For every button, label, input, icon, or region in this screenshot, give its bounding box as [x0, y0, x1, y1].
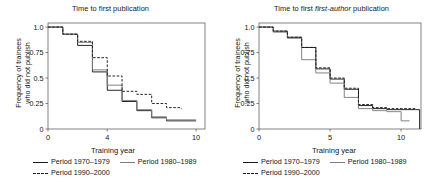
svg-text:10: 10	[397, 133, 405, 142]
legend-entry-period-1970-1979: Period 1970–1979	[33, 157, 110, 166]
svg-text:5: 5	[328, 133, 332, 142]
legend-entry-period-1980-1989: Period 1980–1989	[330, 157, 407, 166]
figure-two-panel-survival-curves: Time to first publication 00.250.50.751.…	[0, 0, 442, 187]
legend-entry-period-1990-2000: Period 1990–2000	[243, 168, 320, 177]
legend-label-period-1970-1979: Period 1970–1979	[51, 157, 110, 166]
svg-text:0: 0	[46, 133, 50, 142]
legend-line-solid-dark-icon	[33, 159, 48, 165]
svg-text:0: 0	[251, 125, 255, 134]
legend-left: Period 1970–1979 Period 1980–1989 Period…	[33, 156, 218, 178]
legend-label-period-1970-1979: Period 1970–1979	[261, 157, 320, 166]
legend-label-period-1990-2000: Period 1990–2000	[261, 168, 320, 177]
legend-entry-period-1980-1989: Period 1980–1989	[120, 157, 197, 166]
panel-time-to-first-publication: Time to first publication 00.250.50.751.…	[0, 0, 221, 187]
legend-line-solid-grey-icon	[330, 159, 345, 165]
svg-text:1.0: 1.0	[34, 23, 44, 32]
y-axis-title-right-line2: who did not publish	[242, 18, 251, 128]
y-axis-title-left-line2: who did not publish	[23, 18, 32, 128]
legend-row-1: Period 1970–1979 Period 1980–1989	[243, 156, 438, 167]
legend-line-dashed-icon	[243, 170, 258, 176]
panel-title-left: Time to first publication	[0, 4, 221, 13]
legend-row-2: Period 1990–2000	[243, 167, 438, 178]
legend-row-2: Period 1990–2000	[33, 167, 218, 178]
legend-label-period-1990-2000: Period 1990–2000	[51, 168, 110, 177]
plot-area-left: 00.250.50.751.00410	[0, 16, 221, 151]
y-axis-title-right-line1: Frequency of trainees	[233, 18, 242, 128]
svg-text:4: 4	[105, 133, 109, 142]
legend-entry-period-1970-1979: Period 1970–1979	[243, 157, 320, 166]
panel-title-right-italic: first-author	[315, 4, 351, 13]
legend-line-solid-dark-icon	[243, 159, 258, 165]
legend-label-period-1980-1989: Period 1980–1989	[348, 157, 407, 166]
panel-title-right: Time to first first-author publication	[221, 4, 442, 13]
legend-line-dashed-icon	[33, 170, 48, 176]
svg-text:0: 0	[257, 133, 261, 142]
legend-entry-period-1990-2000: Period 1990–2000	[33, 168, 110, 177]
panel-title-right-prefix: Time to first	[274, 4, 315, 13]
svg-text:0: 0	[40, 125, 44, 134]
panel-title-left-text: Time to first publication	[72, 4, 149, 13]
legend-right: Period 1970–1979 Period 1980–1989 Period…	[243, 156, 438, 178]
svg-text:10: 10	[192, 133, 200, 142]
y-axis-title-left-line1: Frequency of trainees	[14, 18, 23, 128]
panel-time-to-first-first-author-publication: Time to first first-author publication 0…	[221, 0, 442, 187]
plot-area-right: 00.250.50.751.00510	[221, 16, 442, 151]
x-axis-title-right: Training year	[249, 146, 419, 155]
panel-title-right-suffix: publication	[351, 4, 389, 13]
x-axis-title-left: Training year	[28, 146, 198, 155]
legend-label-period-1980-1989: Period 1980–1989	[138, 157, 197, 166]
legend-row-1: Period 1970–1979 Period 1980–1989	[33, 156, 218, 167]
legend-line-solid-grey-icon	[120, 159, 135, 165]
svg-text:0.5: 0.5	[34, 74, 44, 83]
